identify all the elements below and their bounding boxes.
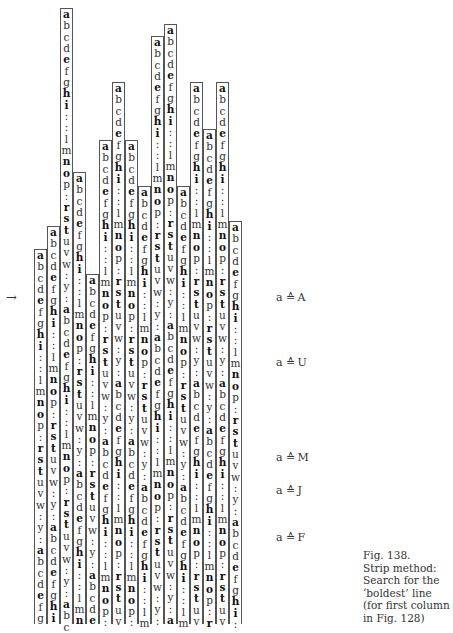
strip-letter: h	[113, 457, 124, 468]
label-letter: a	[276, 484, 283, 497]
strip-letter: b	[204, 141, 215, 152]
strip-letter: e	[100, 481, 111, 492]
strip-letter: h	[139, 561, 150, 572]
label-letter: A	[298, 291, 306, 304]
strip-letter: v	[48, 465, 59, 476]
strip-letter: v	[152, 570, 163, 581]
strip-letter: h	[230, 596, 241, 607]
strip-letter: p	[113, 253, 124, 264]
row-pointer-arrow-icon: →	[6, 290, 17, 305]
strip-letter: b	[87, 581, 98, 592]
strip-letter: h	[74, 547, 85, 558]
caption-line: in Fig. 128)	[363, 612, 450, 625]
strip-column: abcdefghi::lmnop:rstuvw:y:abcdefghi:	[229, 221, 242, 624]
strip-letter: e	[48, 567, 59, 578]
decryption-label: a≙U	[276, 356, 307, 369]
strip-letter: b	[100, 152, 111, 163]
strip-column: abcdefghi::lmnop:rstuvw:y:abcdefghi::lmn…	[164, 24, 177, 624]
strip-letter: v	[178, 425, 189, 436]
strip-letter: e	[178, 527, 189, 538]
strip-letter: y	[217, 355, 228, 366]
strip-letter: y	[178, 459, 189, 470]
strip-letter: p	[74, 343, 85, 354]
strip-letter: b	[152, 48, 163, 59]
decryption-label: a≙A	[276, 291, 306, 304]
label-letter: U	[298, 356, 307, 369]
strip-letter: e	[191, 423, 202, 434]
strip-letter: b	[191, 94, 202, 105]
strip-letter: b	[48, 533, 59, 544]
strip-letter: b	[74, 184, 85, 195]
corresponds-icon: ≙	[286, 484, 295, 497]
strip-letter: b	[61, 610, 72, 621]
strip-letter: i	[48, 613, 59, 624]
strip-letter: y	[113, 355, 124, 366]
strip-letter: p	[191, 253, 202, 264]
caption-line: Fig. 138.	[363, 549, 450, 562]
strip-letter: s	[100, 345, 111, 356]
strip-letter: v	[139, 425, 150, 436]
label-letter: F	[298, 531, 306, 544]
strip-letter: h	[100, 515, 111, 526]
strip-letter: y	[165, 592, 176, 603]
strip-letter: p	[48, 397, 59, 408]
caption-line: Strip method:	[363, 562, 450, 575]
decryption-label: a≙M	[276, 451, 309, 464]
strip-letter: s	[204, 334, 215, 345]
strip-letter: s	[48, 431, 59, 442]
strip-letter: y	[35, 522, 46, 533]
strip-letter: y	[61, 281, 72, 292]
strip-letter: y	[48, 499, 59, 510]
strip-letter: b	[139, 198, 150, 209]
caption-line: Search for the	[363, 574, 450, 587]
strip-letter: v	[100, 379, 111, 390]
corresponds-icon: ≙	[286, 451, 295, 464]
strip-letter: y	[152, 309, 163, 320]
strip-column: abcdefghi::lmnop:rstuvw:y:abcdefghi::lmn…	[125, 140, 138, 624]
strip-letter: s	[35, 454, 46, 465]
label-letter: J	[298, 484, 302, 497]
strip-letter: y	[204, 402, 215, 413]
strip-column: abcdefghi::lmnop:rstuvw:y:abcde	[86, 274, 99, 624]
strip-letter: y	[165, 297, 176, 308]
strip-letter: b	[87, 286, 98, 297]
strip-letter: b	[61, 20, 72, 31]
strip-letter: s	[139, 391, 150, 402]
corresponds-icon: ≙	[286, 531, 295, 544]
strip-column: abcdefghi::lmnop:rstuvw:y:abcdefghi::lmn	[73, 172, 86, 624]
strip-letter: s	[178, 391, 189, 402]
strip-letter: b	[113, 389, 124, 400]
strip-letter: s	[61, 213, 72, 224]
strip-letter: e	[152, 377, 163, 388]
strip-letter: v	[61, 542, 72, 553]
strip-letter: y	[74, 445, 85, 456]
strip-letter: e	[217, 423, 228, 434]
strip-letter: v	[204, 368, 215, 379]
strip-letter: s	[74, 377, 85, 388]
strip-letter: v	[191, 616, 202, 627]
label-letter: a	[276, 291, 283, 304]
strip-letter: y	[61, 576, 72, 587]
strip-letter: h	[61, 383, 72, 394]
strip-letter: y	[191, 355, 202, 366]
strip-letter: v	[113, 321, 124, 332]
strip-letter: p	[204, 300, 215, 311]
strip-letter: e	[87, 615, 98, 626]
strip-letter: y	[100, 413, 111, 424]
strip-column: abcdefghi::lmnop:rstuvw:y:abcdefghi::lmn…	[190, 82, 203, 624]
strip-letter: b	[74, 479, 85, 490]
strip-letter: s	[165, 229, 176, 240]
strip-letter: e	[126, 481, 137, 492]
strip-letter: b	[217, 389, 228, 400]
strip-letter: s	[113, 287, 124, 298]
strip-letter: s	[126, 345, 137, 356]
strip-letter: e	[113, 423, 124, 434]
strip-letter: p	[35, 420, 46, 431]
strip-column: abcdefghi::lmnop:rstuvw:y:abcdefghi::lmn…	[151, 36, 164, 624]
strip-letter: v	[165, 263, 176, 274]
strip-letter: p	[139, 357, 150, 368]
strip-letter: s	[87, 479, 98, 490]
strip-letter: p	[152, 207, 163, 218]
strip-column: abcdefghi::lmnop:rstuvw:y:abcdefghi::lmn…	[60, 8, 73, 624]
strip-letter: h	[204, 504, 215, 515]
